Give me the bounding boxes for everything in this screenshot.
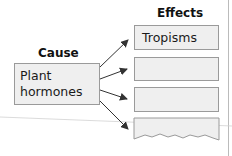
arrow-to-effect-2: [100, 69, 127, 79]
arrow-to-effect-3: [100, 90, 127, 99]
arrows-layer: [0, 0, 232, 156]
arrow-to-effect-4: [100, 101, 128, 129]
effect-box-4-torn[interactable]: [134, 118, 219, 140]
arrow-to-effect-1: [100, 40, 128, 67]
